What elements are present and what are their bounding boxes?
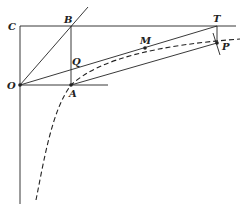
point-a xyxy=(69,83,73,87)
label-m: M xyxy=(139,35,152,46)
label-a: A xyxy=(68,88,77,99)
label-t: T xyxy=(213,13,222,24)
label-b: B xyxy=(63,14,72,25)
dashed-curve xyxy=(36,39,240,200)
label-c: C xyxy=(8,21,16,32)
label-q: Q xyxy=(72,56,81,67)
line-ot xyxy=(20,26,217,85)
point-m xyxy=(143,46,147,50)
line-ob xyxy=(20,7,88,85)
label-o: O xyxy=(7,80,16,91)
point-o xyxy=(18,83,22,87)
label-p: P xyxy=(221,41,230,52)
geometry-diagram: C B O A Q M T P xyxy=(0,0,247,214)
point-p xyxy=(215,41,219,45)
